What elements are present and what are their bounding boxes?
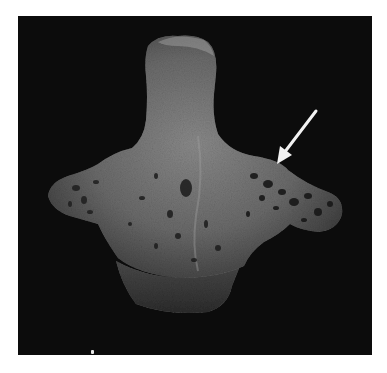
bone-illustration: [18, 16, 372, 355]
specimen-photo: [18, 16, 372, 355]
top-caption-fragment: [0, 0, 387, 14]
image-artifact-speck: [91, 350, 94, 354]
annotation-arrow-icon: [277, 111, 316, 164]
